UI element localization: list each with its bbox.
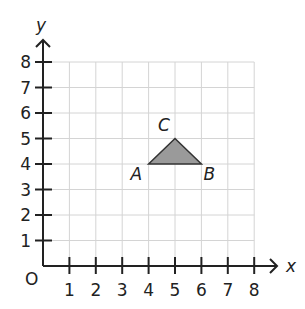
x-tick-label: 6 [196,280,207,300]
y-tick-label: 7 [20,78,31,98]
x-tick-label: 1 [64,280,75,300]
y-tick-label: 3 [20,180,31,200]
x-tick-label: 2 [90,280,101,300]
x-tick-label: 3 [117,280,128,300]
x-tick-label: 4 [143,280,154,300]
vertex-label-a: A [130,164,143,184]
y-tick-label: 2 [20,205,31,225]
y-tick-label: 1 [20,231,31,251]
y-tick-label: 4 [20,154,31,174]
y-tick-label: 6 [20,103,31,123]
triangle-abc [149,139,202,165]
y-tick-label: 5 [20,129,31,149]
origin-label: O [25,269,38,289]
x-tick-label: 7 [222,280,233,300]
vertex-label-b: B [203,164,215,184]
coordinate-grid-diagram: 1234567812345678 x y O ABC [0,0,305,309]
x-tick-label: 5 [170,280,181,300]
vertex-label-c: C [158,115,170,135]
y-tick-label: 8 [20,52,31,72]
x-axis-label: x [285,256,297,276]
x-tick-label: 8 [249,280,260,300]
y-axis-label: y [35,15,47,35]
